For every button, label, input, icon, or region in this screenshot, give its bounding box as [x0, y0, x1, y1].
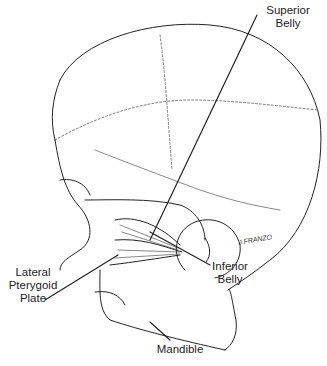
- label-line: Belly: [258, 17, 318, 30]
- skull-drawing: [0, 0, 327, 366]
- label-line: Inferior: [205, 260, 255, 273]
- label-lateral-pterygoid-plate: Lateral Pterygoid Plate: [4, 266, 62, 305]
- label-line: Pterygoid: [4, 279, 62, 292]
- label-mandible: Mandible: [150, 343, 210, 356]
- label-line: Plate: [4, 292, 62, 305]
- label-inferior-belly: Inferior Belly: [205, 260, 255, 286]
- label-line: Mandible: [150, 343, 210, 356]
- label-line: Belly: [205, 273, 255, 286]
- label-superior-belly: Superior Belly: [258, 4, 318, 30]
- label-line: Lateral: [4, 266, 62, 279]
- anatomy-figure: Superior Belly Lateral Pterygoid Plate I…: [0, 0, 327, 366]
- label-line: Superior: [258, 4, 318, 17]
